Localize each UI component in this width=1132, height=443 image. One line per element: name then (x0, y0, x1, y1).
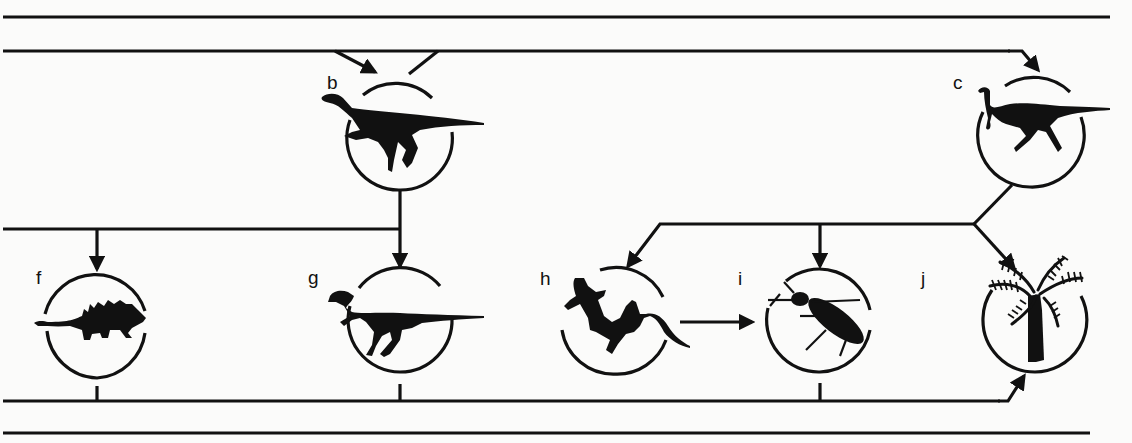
node-b (322, 83, 484, 190)
arrow-to-j (974, 224, 1014, 268)
node-label-i: i (738, 268, 742, 290)
link-c-down (974, 185, 1012, 224)
node-b-ring (363, 83, 432, 98)
beetle-icon (768, 282, 870, 356)
node-label-c: c (953, 72, 963, 94)
cycad-tree-icon (990, 256, 1082, 362)
node-i (767, 269, 871, 372)
arrow-to-c (1008, 51, 1038, 70)
node-g (328, 268, 484, 372)
arrow-to-h (628, 224, 974, 266)
arrow-bottom-line-to-j (998, 376, 1024, 401)
ankylosaur-icon (34, 300, 146, 340)
ornithomimid-dinosaur-icon (978, 87, 1110, 152)
node-label-j: j (921, 268, 925, 290)
theropod-dinosaur-icon (328, 291, 484, 357)
arrow-to-b (335, 51, 375, 72)
node-label-g: g (308, 267, 319, 289)
node-label-b: b (327, 72, 338, 94)
node-label-h: h (540, 268, 551, 290)
food-web-diagram (0, 0, 1132, 443)
lizard-icon (564, 278, 690, 354)
node-f (34, 275, 146, 378)
node-c (978, 77, 1110, 187)
node-h (562, 267, 690, 374)
node-j (983, 256, 1087, 372)
node-label-f: f (36, 267, 41, 289)
link-b-to-upper-line (409, 51, 438, 74)
